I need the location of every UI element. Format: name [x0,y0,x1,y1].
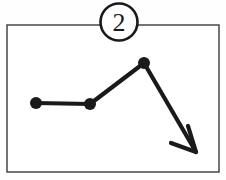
line-chart-diagram: 2 [0,0,226,180]
data-point-marker [138,57,150,69]
step-number-label: 2 [113,8,126,37]
data-point-marker [30,97,42,109]
diagram-canvas: 2 [0,0,226,180]
data-point-marker [84,98,96,110]
